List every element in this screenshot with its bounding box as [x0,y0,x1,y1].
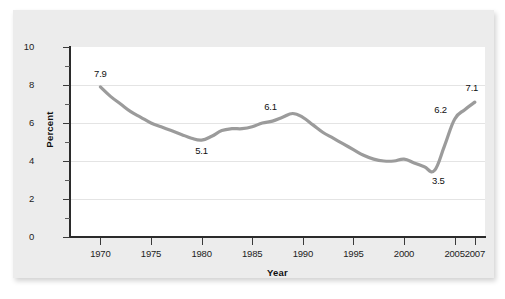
chart-figure: 0246810 19701975198019851990199520002005… [0,0,505,299]
y-tick-label-0: 0 [10,231,34,242]
x-tick-label-1995: 1995 [333,248,373,259]
y-axis-title: Percent [44,90,55,170]
x-tick-1990 [303,238,304,245]
data-label-3-5: 3.5 [432,175,445,186]
x-tick-1985 [252,238,253,245]
x-tick-2005 [455,238,456,245]
x-tick-label-2007: 2007 [455,248,495,259]
y-tick-label-8: 8 [10,79,34,90]
chart-panel: 0246810 19701975198019851990199520002005… [13,10,494,278]
data-label-7-1: 7.1 [466,82,479,93]
x-tick-1980 [202,238,203,245]
data-label-5-1: 5.1 [195,145,208,156]
x-tick-1975 [151,238,152,245]
line-series-percent [70,47,485,237]
data-label-6-1: 6.1 [264,101,277,112]
x-tick-1995 [353,238,354,245]
y-tick-label-6: 6 [10,117,34,128]
y-tick-label-4: 4 [10,155,34,166]
x-tick-label-1985: 1985 [232,248,272,259]
x-tick-1970 [100,238,101,245]
y-tick-0 [63,237,70,238]
x-tick-label-2000: 2000 [384,248,424,259]
y-tick-6 [63,123,70,124]
data-label-7-9: 7.9 [94,68,107,79]
x-tick-label-1990: 1990 [283,248,323,259]
y-tick-8 [63,85,70,86]
x-tick-2000 [404,238,405,245]
y-tick-10 [63,47,70,48]
x-tick-2007 [475,238,476,245]
y-tick-2 [63,199,70,200]
x-tick-label-1970: 1970 [80,248,120,259]
x-axis-title: Year [70,267,485,278]
x-tick-label-1975: 1975 [131,248,171,259]
y-tick-4 [63,161,70,162]
y-tick-label-10: 10 [10,41,34,52]
series-path-percent [100,87,475,172]
data-label-6-2: 6.2 [434,104,447,115]
x-tick-label-1980: 1980 [182,248,222,259]
y-tick-label-2: 2 [10,193,34,204]
